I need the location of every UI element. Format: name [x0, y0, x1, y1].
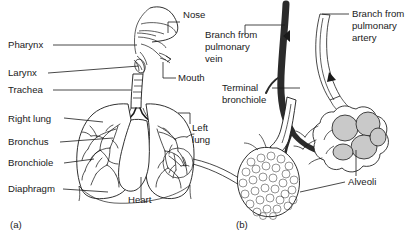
- pharynx-larynx-detail: [133, 44, 171, 75]
- label-bronchus: Bronchus: [8, 136, 49, 147]
- label-left-lung-line2: lung: [192, 134, 210, 145]
- label-terminal-bronchiole-line1: Terminal: [222, 82, 258, 93]
- panel-a-marker: (a): [10, 219, 22, 230]
- label-vein-line3: vein: [205, 53, 223, 64]
- label-bronchiole: Bronchiole: [8, 157, 53, 168]
- leader-mouth: [163, 62, 176, 78]
- alveoli-cutaway-cluster: [313, 106, 388, 172]
- label-artery-line3: artery: [352, 32, 377, 43]
- alveolar-sac-cluster: [237, 134, 299, 220]
- respiratory-system-figure: Pharynx Larynx Trachea Right lung Bronch…: [0, 0, 419, 243]
- trachea-tube: [131, 74, 143, 108]
- label-left-lung-line1: Left: [192, 122, 208, 133]
- label-trachea: Trachea: [8, 84, 44, 95]
- label-alveoli: Alveoli: [348, 176, 376, 187]
- label-right-lung: Right lung: [8, 113, 51, 124]
- label-mouth: Mouth: [178, 72, 205, 83]
- label-vein-line2: pulmonary: [205, 41, 250, 52]
- figure-canvas: Pharynx Larynx Trachea Right lung Bronch…: [0, 0, 419, 243]
- label-artery-line1: Branch from: [352, 8, 404, 19]
- leader-larynx: [48, 66, 139, 73]
- label-heart: Heart: [128, 194, 152, 205]
- head-profile-icon: [135, 7, 178, 54]
- label-diaphragm: Diaphragm: [8, 183, 55, 194]
- panel-b-marker: (b): [236, 219, 248, 230]
- label-nose: Nose: [183, 9, 205, 20]
- label-artery-line2: pulmonary: [352, 20, 397, 31]
- label-pharynx: Pharynx: [8, 39, 43, 50]
- label-terminal-bronchiole-line2: bronchiole: [222, 94, 266, 105]
- leader-alveoli-sac: [300, 182, 345, 192]
- label-larynx: Larynx: [8, 67, 37, 78]
- label-vein-line1: Branch from: [205, 29, 257, 40]
